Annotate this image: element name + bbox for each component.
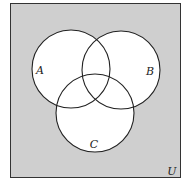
set-b-label: B — [145, 65, 154, 78]
set-a-label: A — [35, 64, 44, 77]
venn-diagram: A B C U — [0, 0, 182, 179]
universe-label: U — [167, 165, 177, 178]
set-c-label: C — [90, 138, 99, 151]
